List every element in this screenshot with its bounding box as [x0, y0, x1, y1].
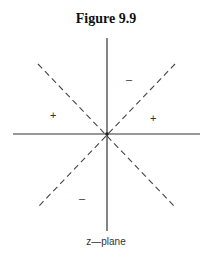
sign-right-region: + [150, 112, 156, 124]
sign-upper-region: – [126, 73, 132, 85]
plane-caption: z—plane [0, 236, 212, 247]
sign-left-region: + [50, 109, 56, 121]
origin-point [105, 132, 109, 136]
sign-lower-region: – [79, 192, 85, 204]
z-plane-diagram [0, 0, 212, 261]
